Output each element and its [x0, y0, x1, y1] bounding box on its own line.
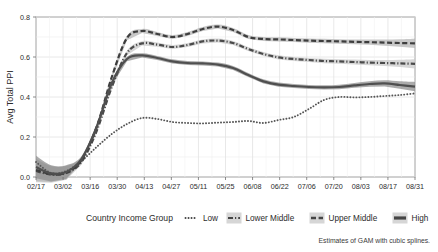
chart-canvas: 0.00.20.40.60.8 02/1703/0203/1603/3004/1…	[0, 0, 438, 252]
legend-item-label: High	[412, 214, 429, 223]
y-tick-label: 0.2	[20, 133, 30, 142]
x-tick-label: 08/03	[352, 182, 370, 191]
legend-item-lower-middle[interactable]: Lower Middle	[227, 213, 295, 224]
x-tick-label: 03/16	[81, 182, 99, 191]
x-tick-label: 02/17	[27, 182, 45, 191]
x-tick-label: 06/08	[244, 182, 262, 191]
y-axis-ticks: 0.00.20.40.60.8	[20, 13, 36, 182]
x-tick-label: 05/11	[190, 182, 207, 191]
x-tick-label: 03/02	[54, 182, 72, 191]
legend: Country Income GroupLowLower MiddleUpper…	[86, 213, 429, 224]
legend-item-label: Low	[203, 214, 218, 223]
x-axis-ticks: 02/1703/0203/1603/3004/1304/2705/1105/25…	[27, 177, 424, 191]
chart-figure: 0.00.20.40.60.8 02/1703/0203/1603/3004/1…	[0, 0, 438, 252]
y-tick-label: 0.8	[20, 13, 30, 22]
x-tick-label: 04/27	[162, 182, 180, 191]
figure-caption: Estimates of GAM with cubic splines.	[319, 237, 431, 245]
x-tick-label: 07/20	[325, 182, 343, 191]
legend-item-label: Lower Middle	[246, 214, 295, 223]
legend-item-upper-middle[interactable]: Upper Middle	[310, 213, 378, 224]
legend-item-low[interactable]: Low	[186, 214, 219, 223]
x-tick-label: 03/30	[108, 182, 126, 191]
x-tick-label: 07/06	[298, 182, 316, 191]
legend-title: Country Income Group	[86, 213, 173, 223]
y-tick-label: 0.4	[20, 93, 30, 102]
x-tick-label: 08/17	[379, 182, 397, 191]
x-tick-label: 06/22	[271, 182, 289, 191]
y-tick-label: 0.6	[20, 53, 30, 62]
x-tick-label: 04/13	[135, 182, 153, 191]
x-tick-label: 08/31	[406, 182, 424, 191]
legend-item-high[interactable]: High	[393, 213, 429, 224]
y-axis-title: Avg Total PPI	[5, 70, 15, 124]
y-tick-label: 0.0	[20, 173, 30, 182]
legend-item-label: Upper Middle	[329, 214, 378, 223]
x-tick-label: 05/25	[217, 182, 235, 191]
